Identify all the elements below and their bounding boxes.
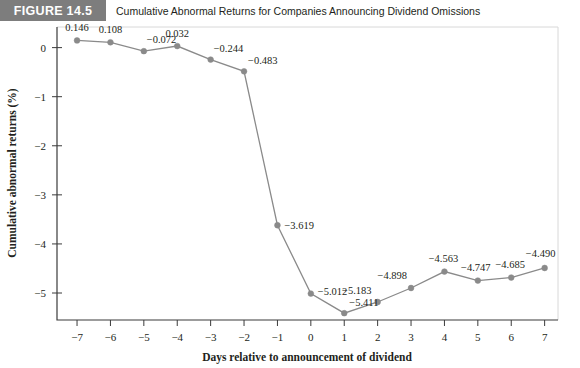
data-point-label: −4.685 <box>495 259 525 270</box>
y-axis-title: Cumulative abnormal returns (%) <box>6 88 19 258</box>
data-point-label: 0.146 <box>65 22 89 33</box>
plot-axes <box>57 27 558 320</box>
data-point-marker <box>408 285 414 291</box>
data-point-marker <box>308 291 314 297</box>
data-point-marker <box>542 265 548 271</box>
series-point-labels: 0.1460.108−0.0720.032−0.244−0.483−3.619−… <box>65 22 555 308</box>
data-point-label: −0.483 <box>248 55 278 66</box>
y-tick-label: −1 <box>34 91 46 103</box>
data-point-marker <box>74 38 80 44</box>
cumulative-abnormal-returns-line-chart: 0.1460.108−0.0720.032−0.244−0.483−3.619−… <box>0 21 580 368</box>
data-point-label: −5.411 <box>349 297 378 308</box>
y-tick-label: −5 <box>34 287 46 299</box>
data-point-label: −5.183 <box>342 285 372 296</box>
x-tick-label: 5 <box>475 331 481 343</box>
x-tick-label: −6 <box>105 331 117 343</box>
figure-number-badge: FIGURE 14.5 <box>0 0 106 21</box>
data-point-label: −4.747 <box>461 262 491 273</box>
data-point-marker <box>241 68 247 74</box>
data-point-marker <box>275 222 281 228</box>
data-point-marker <box>508 275 514 281</box>
data-point-marker <box>208 57 214 63</box>
figure-caption: Cumulative Abnormal Returns for Companie… <box>116 0 480 21</box>
y-tick-label: 0 <box>41 42 47 54</box>
y-tick-label: −4 <box>34 238 46 250</box>
y-tick-label: −3 <box>34 189 46 201</box>
x-tick-label: 6 <box>508 331 514 343</box>
data-point-label: −4.563 <box>429 253 459 264</box>
data-point-label: −0.244 <box>214 43 244 54</box>
x-tick-label: −3 <box>205 331 217 343</box>
data-point-label: −4.898 <box>377 270 407 281</box>
data-point-marker <box>108 39 114 45</box>
data-point-label: 0.108 <box>99 24 123 35</box>
data-point-marker <box>141 48 147 54</box>
data-point-marker <box>442 269 448 275</box>
plot-frame <box>57 27 558 320</box>
x-tick-label: −1 <box>272 331 284 343</box>
chart-area: 0.1460.108−0.0720.032−0.244−0.483−3.619−… <box>0 21 580 368</box>
x-tick-label: −7 <box>71 331 83 343</box>
data-point-label: −4.490 <box>526 248 556 259</box>
data-point-marker <box>341 310 347 316</box>
x-tick-label: 7 <box>542 331 548 343</box>
series-markers <box>74 38 547 317</box>
x-tick-label: −5 <box>138 331 150 343</box>
figure-header: FIGURE 14.5 Cumulative Abnormal Returns … <box>0 0 580 21</box>
x-axis-ticks <box>77 320 545 326</box>
x-tick-label: 0 <box>308 331 314 343</box>
data-point-label: −3.619 <box>284 220 314 231</box>
x-tick-label: 4 <box>442 331 448 343</box>
x-axis-title: Days relative to announcement of dividen… <box>202 351 412 364</box>
x-tick-label: −2 <box>238 331 250 343</box>
x-tick-label: −4 <box>171 331 183 343</box>
data-point-marker <box>475 278 481 284</box>
x-tick-label: 1 <box>341 331 347 343</box>
x-tick-label: 3 <box>408 331 414 343</box>
data-point-label: 0.032 <box>165 28 189 39</box>
x-axis-tick-labels: −7−6−5−4−3−2−101234567 <box>71 331 548 343</box>
x-tick-label: 2 <box>375 331 381 343</box>
y-tick-label: −2 <box>34 140 46 152</box>
y-axis-tick-labels: 0−1−2−3−4−5 <box>34 42 46 299</box>
